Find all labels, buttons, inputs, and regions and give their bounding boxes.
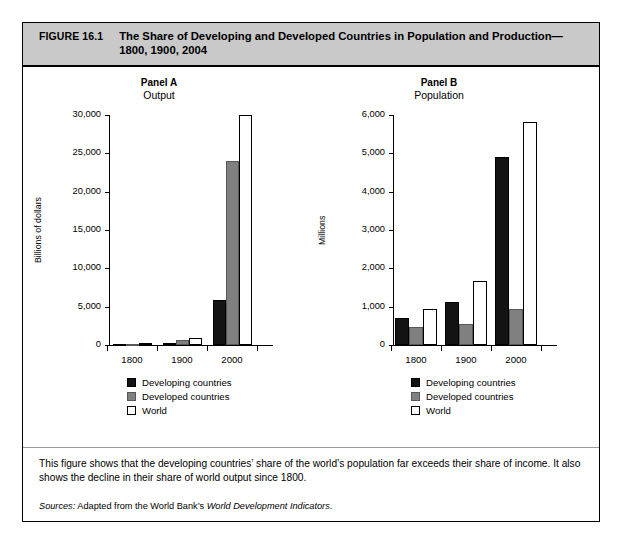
bar-developing-1800 <box>113 344 126 346</box>
y-tick-mark <box>105 115 110 116</box>
y-tick-mark <box>389 268 394 269</box>
panel-a-plot: 05,00010,00015,00020,00025,00030,000Bill… <box>31 67 287 397</box>
panel-b-legend: Developing countriesDeveloped countriesW… <box>411 375 516 417</box>
x-tick-label-2000: 2000 <box>486 354 546 365</box>
bar-developed-1900 <box>459 324 473 345</box>
y-tick-label: 1,000 <box>331 301 385 311</box>
caption-divider <box>23 447 599 448</box>
y-axis-title: Millions <box>317 185 327 275</box>
y-tick-label: 5,000 <box>47 301 101 311</box>
y-tick-mark <box>105 268 110 269</box>
figure-title: The Share of Developing and Developed Co… <box>103 30 599 57</box>
bar-developed-1800 <box>409 327 423 345</box>
legend-swatch-developing-icon <box>411 378 420 387</box>
y-tick-label: 2,000 <box>331 262 385 272</box>
bar-developing-1800 <box>395 318 409 345</box>
legend-swatch-developed-icon <box>411 392 420 401</box>
figure-sources: Sources: Adapted from the World Bank’s W… <box>39 500 581 513</box>
panels-container: Panel A Output 05,00010,00015,00020,0002… <box>23 67 599 397</box>
bar-developed-2000 <box>226 161 239 345</box>
bar-world-2000 <box>239 115 252 345</box>
legend-item-developed: Developed countries <box>127 389 232 403</box>
y-tick-label: 0 <box>47 339 101 349</box>
figure-frame: FIGURE 16.1 The Share of Developing and … <box>22 22 600 522</box>
bar-developed-1900 <box>176 340 189 345</box>
y-tick-mark <box>105 192 110 193</box>
y-tick-mark <box>389 115 394 116</box>
panel-a-legend: Developing countriesDeveloped countriesW… <box>127 375 232 417</box>
sources-text-before: Adapted from the World Bank’s <box>75 501 206 511</box>
legend-swatch-developed-icon <box>127 392 136 401</box>
y-tick-mark <box>389 153 394 154</box>
legend-label-developed: Developed countries <box>426 391 513 402</box>
y-tick-label: 4,000 <box>331 186 385 196</box>
figure-number: FIGURE 16.1 <box>23 30 103 42</box>
y-tick-mark <box>389 192 394 193</box>
sources-label: Sources: <box>39 501 75 511</box>
legend-label-developed: Developed countries <box>142 391 229 402</box>
legend-label-world: World <box>426 405 451 416</box>
x-tick-mark <box>441 346 442 351</box>
x-tick-mark <box>391 346 392 351</box>
bar-developing-2000 <box>495 157 509 345</box>
bar-world-1800 <box>423 309 437 345</box>
legend-swatch-world-icon <box>127 406 136 415</box>
bar-world-1900 <box>189 338 202 345</box>
y-tick-label: 0 <box>331 339 385 349</box>
y-axis-title: Billions of dollars <box>33 185 43 275</box>
x-axis-line <box>393 345 557 346</box>
legend-item-world: World <box>411 403 516 417</box>
x-tick-mark <box>541 346 542 351</box>
legend-label-developing: Developing countries <box>142 377 232 388</box>
bar-developing-2000 <box>213 300 226 345</box>
y-tick-label: 25,000 <box>47 147 101 157</box>
bar-developing-1900 <box>163 343 176 345</box>
legend-item-developing: Developing countries <box>127 375 232 389</box>
y-tick-label: 30,000 <box>47 109 101 119</box>
bar-developed-2000 <box>509 309 523 345</box>
bar-world-1900 <box>473 281 487 345</box>
x-tick-mark <box>257 346 258 351</box>
sources-italic-title: World Development Indicators <box>207 501 330 511</box>
x-tick-mark <box>107 346 108 351</box>
y-tick-mark <box>105 307 110 308</box>
bar-world-2000 <box>523 122 537 345</box>
legend-label-world: World <box>142 405 167 416</box>
y-tick-label: 10,000 <box>47 262 101 272</box>
x-tick-mark <box>207 346 208 351</box>
panel-b-plot: 01,0002,0003,0004,0005,0006,000Millions1… <box>311 67 567 397</box>
y-tick-mark <box>105 153 110 154</box>
bar-world-1800 <box>139 343 152 345</box>
y-tick-label: 6,000 <box>331 109 385 119</box>
x-tick-mark <box>157 346 158 351</box>
legend-item-developing: Developing countries <box>411 375 516 389</box>
legend-item-world: World <box>127 403 232 417</box>
x-tick-label-2000: 2000 <box>202 354 262 365</box>
x-tick-mark <box>491 346 492 351</box>
legend-swatch-world-icon <box>411 406 420 415</box>
legend-swatch-developing-icon <box>127 378 136 387</box>
y-tick-label: 3,000 <box>331 224 385 234</box>
figure-header: FIGURE 16.1 The Share of Developing and … <box>23 23 599 67</box>
bar-developed-1800 <box>126 344 139 346</box>
y-tick-mark <box>389 230 394 231</box>
y-tick-label: 5,000 <box>331 147 385 157</box>
panel-a: Panel A Output 05,00010,00015,00020,0002… <box>31 67 287 397</box>
bar-developing-1900 <box>445 302 459 345</box>
figure-caption: This figure shows that the developing co… <box>39 457 581 485</box>
y-tick-label: 20,000 <box>47 186 101 196</box>
panel-b: Panel B Population 01,0002,0003,0004,000… <box>311 67 567 397</box>
y-tick-mark <box>105 230 110 231</box>
y-tick-label: 15,000 <box>47 224 101 234</box>
legend-label-developing: Developing countries <box>426 377 516 388</box>
legend-item-developed: Developed countries <box>411 389 516 403</box>
y-tick-mark <box>389 307 394 308</box>
sources-text-after: . <box>330 501 333 511</box>
